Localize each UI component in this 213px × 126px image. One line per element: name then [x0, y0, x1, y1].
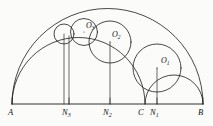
label-point-C: C — [138, 108, 144, 117]
label-O2: O2 — [112, 31, 121, 39]
label-N1-subscript: 1 — [156, 112, 159, 118]
label-O3: O3 — [86, 22, 95, 30]
label-point-N1: N1 — [150, 108, 159, 117]
label-O1-subscript: 1 — [167, 60, 170, 66]
label-point-A: A — [8, 108, 13, 117]
geometry-figure: O1 O2 O3 A N3 N2 C N1 B — [0, 0, 213, 126]
label-N3-subscript: 3 — [68, 112, 71, 118]
label-point-N3: N3 — [62, 108, 71, 117]
label-point-N2: N2 — [103, 108, 112, 117]
label-O2-subscript: 2 — [118, 34, 121, 40]
label-O1: O1 — [161, 57, 170, 65]
inner-semicircle-CB — [145, 75, 203, 104]
outer-semicircle-AB — [12, 9, 203, 105]
label-point-B: B — [198, 108, 203, 117]
center-dot-O3 — [84, 32, 85, 33]
center-dot-O2 — [110, 42, 111, 43]
label-N2-subscript: 2 — [109, 112, 112, 118]
label-O3-subscript: 3 — [92, 25, 95, 31]
center-dot-O1 — [157, 68, 158, 69]
inner-semicircle-AC — [12, 38, 145, 105]
